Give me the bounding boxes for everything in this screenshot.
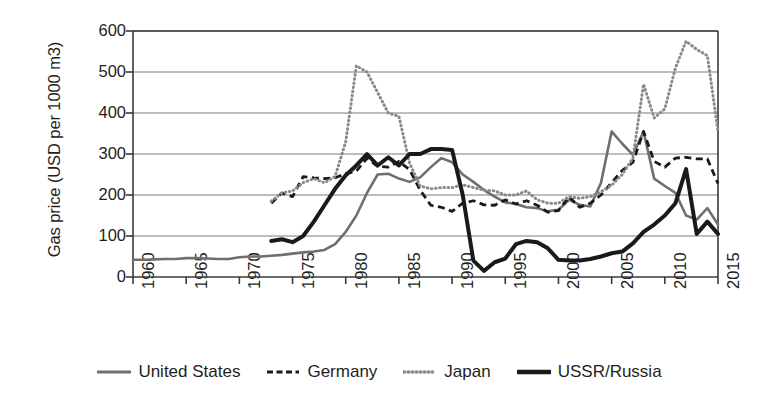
line-solid-gray-icon [97,365,131,379]
line-solid-black-icon [517,365,551,379]
line-dotted-gray-icon [403,365,437,379]
gas-price-chart-figure: Gas price (USD per 1000 m3) 600500400300… [0,0,759,400]
gridlines [133,31,718,236]
legend-item-germany[interactable]: Germany [266,362,377,382]
chart-legend: United StatesGermanyJapanUSSR/Russia [0,357,759,387]
legend-item-ussr-russia[interactable]: USSR/Russia [517,362,662,382]
legend-label: USSR/Russia [558,362,662,382]
legend-label: Japan [444,362,490,382]
legend-item-united-states[interactable]: United States [97,362,240,382]
legend-label: United States [138,362,240,382]
series-line-japan [271,41,718,203]
plot-area [0,0,759,400]
line-dashed-black-icon [266,365,300,379]
legend-label: Germany [307,362,377,382]
series-line-germany [271,131,718,212]
legend-item-japan[interactable]: Japan [403,362,490,382]
